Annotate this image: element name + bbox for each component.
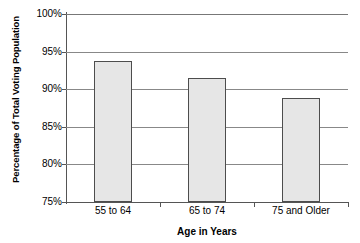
x-axis-line: [66, 202, 349, 203]
y-tick-label: 90%: [18, 84, 62, 94]
y-tick-label: 80%: [18, 159, 62, 169]
bar-65-to-74: [188, 78, 226, 202]
y-axis-line: [66, 12, 67, 204]
y-tickmark: [62, 89, 66, 90]
y-tickmark: [62, 52, 66, 53]
x-category-tick: [348, 202, 349, 207]
y-tick-label: 85%: [18, 122, 62, 132]
x-tick-label: 75 and Older: [254, 206, 348, 216]
y-tickmark: [62, 127, 66, 128]
y-tickmark: [62, 14, 66, 15]
bar-55-to-64: [94, 61, 132, 202]
y-tickmark: [62, 164, 66, 165]
y-tick-label: 95%: [18, 47, 62, 57]
x-tick-label: 65 to 74: [160, 206, 254, 216]
y-tick-label: 75%: [18, 197, 62, 207]
plot-area: [66, 14, 348, 202]
bar-chart: Percentage of Total Voting Population 10…: [0, 0, 360, 243]
gridline-95: [66, 52, 348, 53]
x-axis-title: Age in Years: [66, 226, 348, 237]
y-tick-label: 100%: [18, 9, 62, 19]
x-tick-label: 55 to 64: [66, 206, 160, 216]
y-tickmark: [62, 202, 66, 203]
bar-75-and-older: [282, 98, 320, 202]
gridline-100: [66, 14, 348, 15]
y-axis-tick-labels: 100% 95% 90% 85% 80% 75%: [16, 0, 62, 243]
